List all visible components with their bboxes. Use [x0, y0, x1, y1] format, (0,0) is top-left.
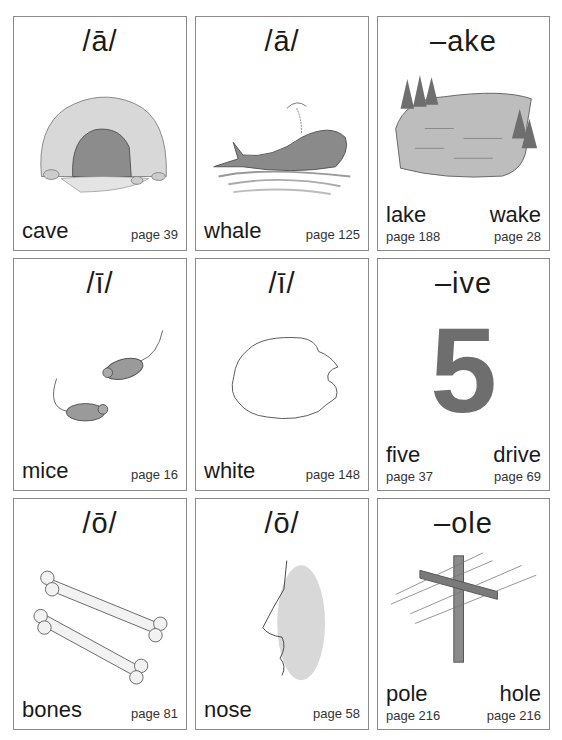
- card-ole: –ole pole hole page 216 page 216: [377, 498, 550, 730]
- white-blob-outline: [204, 311, 360, 446]
- nose-illustration: [204, 551, 360, 685]
- word-label-right: drive: [493, 442, 541, 468]
- card-white: /ī/ white page 148: [195, 258, 369, 491]
- page-reference-left: page 37: [386, 469, 433, 484]
- lake-illustration: [386, 69, 541, 188]
- card-title: /ō/: [14, 507, 186, 540]
- card-title: –ole: [378, 507, 549, 540]
- word-label-right: hole: [499, 681, 541, 707]
- whale-illustration: [204, 69, 360, 206]
- word-label-left: lake: [386, 202, 426, 228]
- card-cave: /ā/ cave page 39: [13, 16, 187, 251]
- word-label: whale: [204, 218, 261, 244]
- page-reference: page 39: [131, 227, 178, 242]
- card-bones: /ō/ bones page 81: [13, 498, 187, 730]
- word-label: mice: [22, 458, 68, 484]
- word-label: nose: [204, 697, 252, 723]
- word-label-left: pole: [386, 681, 428, 707]
- cave-illustration: [22, 69, 178, 206]
- word-label: white: [204, 458, 255, 484]
- mice-illustration: [22, 311, 178, 446]
- page-reference: page 125: [306, 227, 360, 242]
- word-label: bones: [22, 697, 82, 723]
- page-reference: page 148: [306, 467, 360, 482]
- page-reference: page 16: [131, 467, 178, 482]
- page-reference-right: page 69: [494, 469, 541, 484]
- word-label-right: wake: [490, 202, 541, 228]
- numeral-five: 5: [430, 310, 497, 430]
- bones-illustration: [22, 551, 178, 685]
- word-label: cave: [22, 218, 68, 244]
- card-title: /ā/: [196, 25, 368, 58]
- page-reference-right: page 216: [487, 708, 541, 723]
- card-title: /ī/: [196, 267, 368, 300]
- card-ive: –ive 5 five drive page 37 page 69: [377, 258, 550, 491]
- word-label-left: five: [386, 442, 420, 468]
- page-reference: page 81: [131, 706, 178, 721]
- card-title: /ī/: [14, 267, 186, 300]
- card-whale: /ā/ whale page 125: [195, 16, 369, 251]
- page-reference-left: page 216: [386, 708, 440, 723]
- card-mice: /ī/ mice page 16: [13, 258, 187, 491]
- card-title: –ake: [378, 25, 549, 58]
- card-ake: –ake lake wake page 188 page 28: [377, 16, 550, 251]
- card-title: –ive: [378, 267, 549, 300]
- telephone-pole-illustration: [386, 551, 541, 667]
- card-title: /ō/: [196, 507, 368, 540]
- page-reference-right: page 28: [494, 229, 541, 244]
- page-reference-left: page 188: [386, 229, 440, 244]
- number-five: 5: [386, 311, 541, 428]
- page-reference: page 58: [313, 706, 360, 721]
- card-title: /ā/: [14, 25, 186, 58]
- card-nose: /ō/ nose page 58: [195, 498, 369, 730]
